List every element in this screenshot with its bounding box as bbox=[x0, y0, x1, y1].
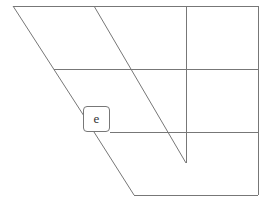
diagram-canvas bbox=[0, 0, 269, 209]
left-diagonal-lower-line bbox=[94, 132, 134, 195]
left-diagonal-upper-line bbox=[13, 6, 84, 116]
node-e-label: e bbox=[94, 111, 100, 127]
middle-diagonal-line bbox=[94, 6, 186, 163]
node-e: e bbox=[83, 106, 110, 132]
